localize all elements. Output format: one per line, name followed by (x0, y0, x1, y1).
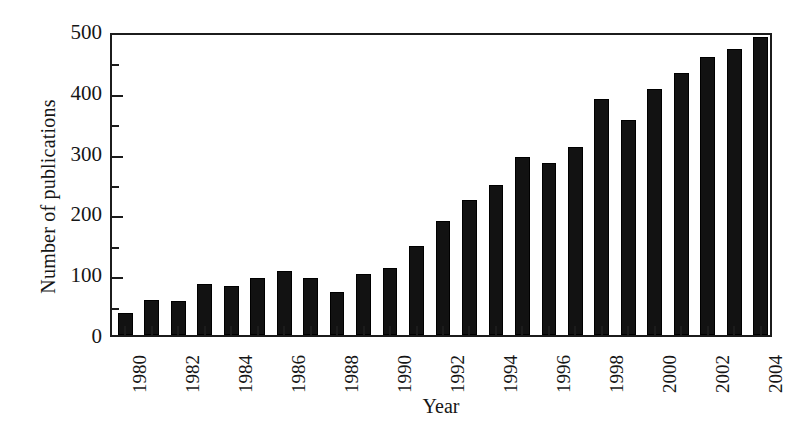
bar (462, 200, 477, 335)
y-axis-minor-tick (112, 247, 119, 249)
x-axis-tick (733, 326, 735, 335)
x-axis-tick-label: 2002 (713, 355, 732, 393)
y-axis-minor-tick (112, 64, 119, 66)
x-axis-tick (283, 326, 285, 335)
x-axis-tick (654, 326, 656, 335)
y-axis-minor-tick (112, 186, 119, 188)
bar (383, 268, 398, 335)
bar (568, 147, 583, 335)
x-axis-tick (389, 326, 391, 335)
bar-series (112, 35, 770, 335)
bar (542, 163, 557, 335)
x-axis-tick (442, 326, 444, 335)
bar (409, 246, 424, 335)
x-axis-tick-label: 1990 (395, 355, 414, 393)
x-axis-tick-label: 2004 (766, 355, 785, 393)
x-axis-tick-labels: 1980198219841986198819901992199419961998… (110, 337, 772, 399)
x-axis-tick-label: 1984 (236, 355, 255, 393)
x-axis-tick (177, 326, 179, 335)
x-axis-tick (310, 326, 312, 335)
x-axis-tick (680, 326, 682, 335)
x-axis-tick (627, 326, 629, 335)
bar (647, 89, 662, 335)
bar (515, 157, 530, 335)
x-axis-tick (468, 326, 470, 335)
x-axis-tick (336, 326, 338, 335)
x-axis-tick-label: 1982 (183, 355, 202, 393)
x-axis-tick (257, 326, 259, 335)
x-axis-tick (363, 326, 365, 335)
x-axis-tick-label: 1988 (342, 355, 361, 393)
y-axis-tick-labels: 0100200300400500 (40, 0, 102, 433)
x-axis-tick (124, 326, 126, 335)
bar (700, 57, 715, 335)
bar (489, 185, 504, 335)
x-axis-tick (230, 326, 232, 335)
x-axis-tick (707, 326, 709, 335)
plot-area (110, 33, 772, 337)
x-axis-title: Year (110, 395, 772, 418)
x-axis-tick-label: 1980 (130, 355, 149, 393)
x-axis-tick-label: 1998 (607, 355, 626, 393)
y-axis-minor-tick (112, 308, 119, 310)
bar (436, 221, 451, 335)
x-axis-tick (601, 326, 603, 335)
x-axis-tick (548, 326, 550, 335)
bar (674, 73, 689, 335)
x-axis-tick-label: 1986 (289, 355, 308, 393)
bar (753, 37, 768, 335)
x-axis-tick-label: 1994 (501, 355, 520, 393)
y-axis-major-tick (112, 216, 123, 218)
y-axis-tick-label: 500 (44, 22, 102, 43)
y-axis-major-tick (112, 156, 123, 158)
x-axis-tick-label: 1992 (448, 355, 467, 393)
y-axis-tick-label: 400 (44, 83, 102, 104)
y-axis-tick-label: 100 (44, 265, 102, 286)
y-axis-major-tick (112, 95, 123, 97)
x-axis-tick (495, 326, 497, 335)
bar (621, 120, 636, 335)
bar (727, 49, 742, 335)
bar (594, 99, 609, 336)
x-axis-tick (151, 326, 153, 335)
x-axis-tick (760, 326, 762, 335)
x-axis-tick-label: 1996 (554, 355, 573, 393)
y-axis-tick-label: 300 (44, 144, 102, 165)
bar-chart-figure: Number of publications 0100200300400500 … (0, 0, 805, 433)
y-axis-tick-label: 0 (44, 326, 102, 347)
y-axis-minor-tick (112, 125, 119, 127)
y-axis-major-tick (112, 277, 123, 279)
x-axis-tick (416, 326, 418, 335)
x-axis-tick (521, 326, 523, 335)
x-axis-tick (574, 326, 576, 335)
x-axis-tick-label: 2000 (660, 355, 679, 393)
x-axis-tick (204, 326, 206, 335)
y-axis-tick-label: 200 (44, 204, 102, 225)
